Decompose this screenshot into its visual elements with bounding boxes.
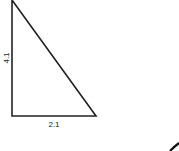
vertical-side-label: 4.1	[2, 52, 11, 64]
triangle-diagram: 4.1 2.1	[0, 0, 179, 151]
partial-curve-stroke	[170, 143, 179, 151]
horizontal-side-label: 2.1	[48, 120, 60, 129]
right-triangle	[12, 0, 96, 116]
